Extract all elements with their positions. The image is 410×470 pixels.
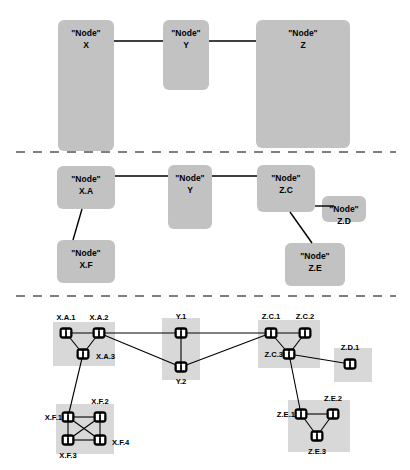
switch-port-left xyxy=(64,437,67,444)
switch-node-icon[interactable] xyxy=(94,434,107,446)
switch-body xyxy=(94,434,107,446)
switch-node-icon[interactable] xyxy=(175,361,188,373)
topology-node-label: Z.C.1 xyxy=(262,312,281,321)
abstract-node-kind-label: "Node" xyxy=(71,248,100,258)
switch-port-left xyxy=(329,411,332,418)
topology-node-label: Y.2 xyxy=(176,377,187,386)
switch-port-right xyxy=(69,414,72,421)
topology-node-label: Z.C.2 xyxy=(296,312,315,321)
abstract-node-kind-label: "Node" xyxy=(329,204,358,214)
diagram-root: "Node"X"Node"Y"Node"Z "Node"X.A"Node"X.F… xyxy=(0,0,410,470)
switch-port-left xyxy=(297,411,300,418)
switch-node-icon[interactable] xyxy=(299,327,312,339)
abstract-node-id-label: Z.C xyxy=(279,185,293,195)
switch-port-right xyxy=(101,414,104,421)
abstract-node-id-label: Y xyxy=(183,40,189,50)
switch-body xyxy=(62,434,75,446)
switch-port-left xyxy=(96,414,99,421)
abstract-node-kind-label: "Node" xyxy=(271,173,300,183)
switch-port-left xyxy=(177,364,180,371)
switch-node-icon[interactable] xyxy=(344,358,357,370)
switch-port-right xyxy=(290,351,293,358)
switch-body xyxy=(265,327,278,339)
abstract-node-kind-label: "Node" xyxy=(71,174,100,184)
abstract-link xyxy=(290,212,312,243)
abstract-node-id-label: X.F xyxy=(79,260,92,270)
switch-port-left xyxy=(285,351,288,358)
topology-node-label: X.F.2 xyxy=(91,397,108,406)
switch-port-right xyxy=(302,411,305,418)
switch-node-icon[interactable] xyxy=(327,408,340,420)
switch-node-icon[interactable] xyxy=(77,348,90,360)
switch-body xyxy=(344,358,357,370)
switch-port-right xyxy=(182,330,185,337)
topology-node-label: Y.1 xyxy=(176,312,187,321)
switch-node-icon[interactable] xyxy=(60,327,73,339)
switch-node-icon[interactable] xyxy=(62,434,75,446)
abstract-node-kind-label: "Node" xyxy=(71,28,100,38)
switch-body xyxy=(93,327,106,339)
switch-port-right xyxy=(69,437,72,444)
topology-node-label: X.A.2 xyxy=(90,313,109,322)
abstract-node-id-label: X.A xyxy=(79,186,93,196)
switch-port-left xyxy=(95,330,98,337)
topology-node-label: X.A.3 xyxy=(96,352,115,361)
topology-node-label: Z.E.3 xyxy=(308,447,326,456)
switch-body xyxy=(311,430,324,442)
abstract-node-id-label: Z xyxy=(300,40,305,50)
switch-port-left xyxy=(177,330,180,337)
topology-node-label: Z.E.2 xyxy=(324,394,342,403)
switch-node-icon[interactable] xyxy=(295,408,308,420)
switch-port-right xyxy=(100,330,103,337)
switch-port-right xyxy=(272,330,275,337)
abstract-link xyxy=(73,209,82,240)
abstract-node-kind-label: "Node" xyxy=(171,28,200,38)
switch-node-icon[interactable] xyxy=(62,411,75,423)
switch-port-left xyxy=(301,330,304,337)
tier1-box-layer xyxy=(58,20,350,151)
switch-port-right xyxy=(351,361,354,368)
switch-port-right xyxy=(334,411,337,418)
topology-node-label: X.F.1 xyxy=(45,413,63,422)
switch-port-left xyxy=(346,361,349,368)
switch-body xyxy=(62,411,75,423)
topology-node-label: X.A.1 xyxy=(57,313,77,322)
switch-port-right xyxy=(101,437,104,444)
switch-port-right xyxy=(84,351,87,358)
abstract-node-id-label: Y xyxy=(187,185,193,195)
abstract-node-kind-label: "Node" xyxy=(175,173,204,183)
switch-body xyxy=(175,361,188,373)
topology-node-label: Z.E.1 xyxy=(277,410,296,419)
switch-port-right xyxy=(182,364,185,371)
switch-body xyxy=(299,327,312,339)
switch-body xyxy=(175,327,188,339)
switch-body xyxy=(283,348,296,360)
topology-node-label: Z.C.3 xyxy=(264,350,283,359)
abstract-node-kind-label: "Node" xyxy=(288,28,317,38)
cluster-band xyxy=(288,400,350,452)
switch-body xyxy=(60,327,73,339)
switch-node-icon[interactable] xyxy=(94,411,107,423)
switch-node-icon[interactable] xyxy=(175,327,188,339)
switch-port-left xyxy=(313,433,316,440)
switch-body xyxy=(295,408,308,420)
switch-body xyxy=(77,348,90,360)
switch-port-left xyxy=(64,414,67,421)
switch-node-icon[interactable] xyxy=(283,348,296,360)
topology-node-label: X.F.4 xyxy=(112,438,130,447)
topology-node-label: X.F.3 xyxy=(59,451,76,460)
abstract-node-id-label: Z.D xyxy=(337,216,351,226)
switch-port-left xyxy=(62,330,65,337)
switch-body xyxy=(94,411,107,423)
switch-node-icon[interactable] xyxy=(311,430,324,442)
abstract-node-box[interactable] xyxy=(256,20,350,148)
diagram-canvas: "Node"X"Node"Y"Node"Z "Node"X.A"Node"X.F… xyxy=(0,0,410,470)
switch-body xyxy=(327,408,340,420)
switch-port-right xyxy=(67,330,70,337)
switch-node-icon[interactable] xyxy=(93,327,106,339)
switch-port-right xyxy=(306,330,309,337)
switch-port-left xyxy=(79,351,82,358)
switch-port-left xyxy=(96,437,99,444)
switch-port-right xyxy=(318,433,321,440)
switch-node-icon[interactable] xyxy=(265,327,278,339)
